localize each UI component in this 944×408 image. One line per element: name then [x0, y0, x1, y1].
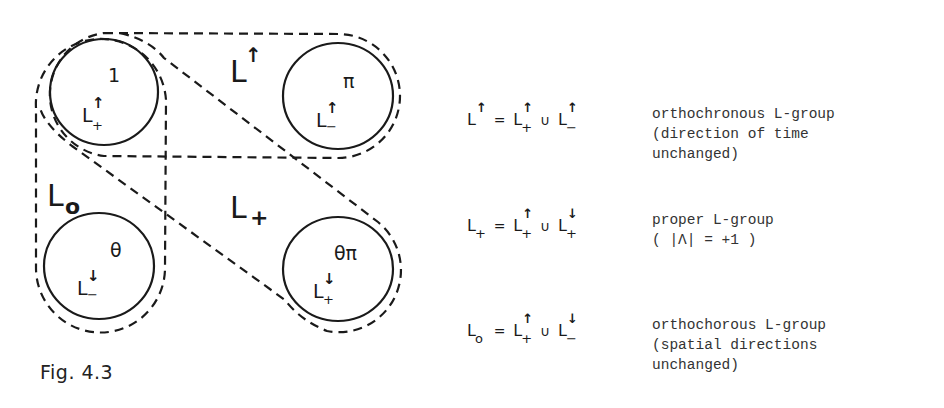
eq-term2: L↓+: [558, 216, 577, 235]
description-orthochronous: orthochronous L-group (direction of time…: [652, 104, 835, 164]
svg-text:↑: ↑: [245, 43, 262, 67]
eq-union: ∪: [540, 112, 550, 128]
eq-term2: L↓−: [558, 321, 577, 340]
circle-time-reversal: [44, 213, 154, 319]
svg-text:−: −: [87, 287, 98, 302]
svg-text:↑: ↑: [326, 99, 339, 117]
circle-identity: [50, 39, 158, 145]
svg-text:−: −: [326, 119, 337, 134]
element-label-full-reversal: θπ: [334, 242, 357, 264]
svg-text:L: L: [47, 178, 64, 213]
region-label-proper: L +: [230, 190, 268, 230]
eq-equals: =: [494, 112, 506, 128]
eq-lhs: L↑: [467, 110, 486, 129]
equation-orthochronous: L↑ = L↑+ ∪ L↑−: [467, 110, 577, 129]
element-label-identity: 1: [108, 64, 120, 86]
equation-proper: L+ = L↑+ ∪ L↓+: [467, 216, 577, 235]
component-label-full-reversal: L ↓ +: [313, 270, 336, 307]
eq-term1: L↑+: [513, 216, 532, 235]
svg-text:+: +: [92, 118, 103, 133]
figure-caption: Fig. 4.3: [40, 361, 113, 383]
component-label-identity: L ↑ +: [82, 94, 105, 133]
component-label-time-reversal: L ↓ −: [77, 267, 100, 302]
equation-orthochorous: Lo = L↑+ ∪ L↓−: [467, 321, 577, 340]
eq-equals: =: [494, 323, 506, 339]
svg-text:↓: ↓: [323, 270, 336, 288]
svg-text:+: +: [250, 205, 268, 230]
eq-lhs: Lo: [467, 321, 486, 340]
description-proper: proper L-group ( |Λ| = +1 ): [652, 210, 774, 250]
eq-term1: L↑+: [513, 110, 532, 129]
svg-text:↑: ↑: [92, 94, 105, 112]
element-label-time-reversal: θ: [110, 239, 122, 261]
svg-text:+: +: [323, 292, 334, 307]
svg-text:L: L: [230, 190, 247, 225]
circle-full-reversal: [283, 217, 393, 321]
circle-parity: [283, 43, 393, 149]
lorentz-group-diagram: 1 π θ θπ L ↑ + L ↑ − L ↓ − L ↓ + L ↑ L +…: [0, 0, 430, 408]
eq-union: ∪: [540, 323, 550, 339]
region-label-orthochronous: L ↑: [230, 43, 262, 89]
description-orthochorous: orthochorous L-group (spatial directions…: [652, 315, 826, 375]
eq-equals: =: [494, 218, 506, 234]
eq-term1: L↑+: [513, 321, 532, 340]
eq-union: ∪: [540, 218, 550, 234]
svg-text:o: o: [65, 194, 80, 219]
eq-term2: L↑−: [558, 110, 577, 129]
component-label-parity: L ↑ −: [316, 99, 339, 134]
region-label-orthochorous: L o: [47, 178, 80, 219]
element-label-parity: π: [343, 70, 354, 92]
svg-text:↓: ↓: [87, 267, 100, 285]
eq-lhs: L+: [467, 216, 486, 235]
